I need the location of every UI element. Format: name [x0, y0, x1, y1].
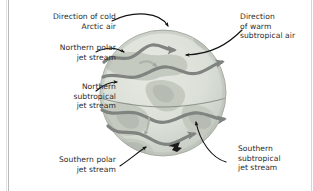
- southern-subtropical-jet-stream-label: Southern subtropical jet stream: [238, 144, 312, 173]
- direction-of-warm-subtropical-air-label: Direction of warm subtropical air: [240, 12, 312, 41]
- arrow-to-arctic-air: [112, 14, 168, 26]
- direction-of-cold-arctic-air-label: Direction of cold Arctic air: [12, 12, 116, 31]
- northern-subtropical-jet-stream-label: Northern subtropical jet stream: [12, 82, 116, 111]
- arrow-to-southern-polar-jet: [120, 147, 146, 166]
- northern-polar-jet-stream-label: Northern polar jet stream: [12, 43, 116, 62]
- southern-polar-jet-stream-label: Southern polar jet stream: [12, 155, 116, 174]
